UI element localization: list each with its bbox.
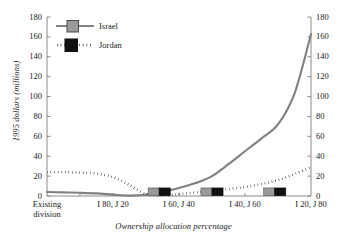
x-axis-title: Ownership allocation percentage (0, 221, 347, 231)
y2-tick-label: 60 (316, 131, 342, 141)
y-tick-label: 80 (16, 111, 42, 121)
y-tick-label: 20 (16, 171, 42, 181)
y-tick-label: 140 (16, 51, 42, 61)
legend-label-jordan: Jordan (99, 40, 122, 50)
y-tick-label: 180 (16, 12, 42, 22)
y-tick-label: 40 (16, 151, 42, 161)
y2-tick-label: 120 (316, 71, 342, 81)
line-series-israel (47, 34, 311, 196)
y-tick-label: 60 (16, 131, 42, 141)
y2-tick-label: 100 (316, 91, 342, 101)
legend-jordan-swatch (57, 39, 94, 52)
y-axis-ticks (47, 17, 51, 196)
marker-jordan (159, 188, 170, 196)
x-tick-label-line2: division (2, 210, 92, 220)
marker-israel (264, 188, 275, 196)
marker-israel (148, 188, 159, 196)
marker-jordan (275, 188, 286, 196)
axis-marker-group (148, 188, 286, 196)
legend-israel-swatch (56, 21, 94, 33)
y-tick-label: 100 (16, 91, 42, 101)
y2-tick-label: 20 (316, 171, 342, 181)
x-tick-label: I 20, J 80 (266, 200, 347, 210)
y-tick-label: 160 (16, 31, 42, 41)
y-tick-label: 120 (16, 71, 42, 81)
chart-container: Israel Jordan 1995 dollars (millions) Ow… (0, 0, 347, 237)
marker-israel (201, 188, 212, 196)
y2-tick-label: 80 (316, 111, 342, 121)
y2-tick-label: 40 (316, 151, 342, 161)
marker-jordan (212, 188, 223, 196)
y2-tick-label: 140 (316, 51, 342, 61)
y2-tick-label: 180 (316, 12, 342, 22)
y2-tick-label: 160 (316, 31, 342, 41)
legend-label-israel: Israel (99, 21, 118, 31)
